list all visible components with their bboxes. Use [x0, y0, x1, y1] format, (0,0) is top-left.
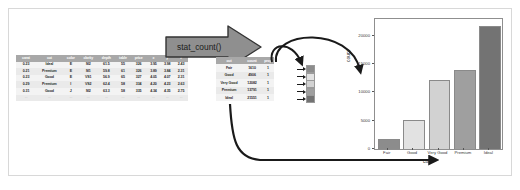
y-axis-tick-mark [372, 148, 374, 149]
cell-cut: Fair [216, 64, 242, 71]
cell-carat: 0.31 [16, 88, 36, 95]
cell-price: 326 [131, 62, 147, 69]
cell-count: 4906 [242, 72, 262, 79]
table-row: 0.23 Good E VS1 56.9 65 327 4.05 4.07 2.… [16, 75, 188, 82]
summary-row: Very Good 12082 1 [216, 79, 274, 86]
summary-header-row: cut count prop [216, 57, 274, 64]
column-header-color: color [63, 55, 79, 62]
cell-prop: 1 [262, 72, 274, 79]
bar-chart: count cut 05000100001500020000FairGoodVe… [351, 14, 506, 166]
x-axis-tick-mark [412, 148, 413, 150]
cell-cut: Premium [36, 68, 63, 75]
x-axis-tick-mark [488, 148, 489, 150]
cell-prop: 1 [262, 79, 274, 86]
column-header-carat: carat [16, 55, 36, 62]
cell-price: 335 [131, 88, 147, 95]
y-axis-tick-label: 20000 [358, 32, 370, 37]
cell-cut: Ideal [36, 62, 63, 69]
cell-count: 1610 [242, 64, 262, 71]
summary-table: cut count prop Fair 1610 1 Good 4906 1 V… [216, 57, 274, 101]
cell-price: 326 [131, 68, 147, 75]
cell-color: E [63, 75, 79, 82]
cell-cut: Good [36, 75, 63, 82]
bar [429, 80, 451, 149]
x-axis-tick-label: Ideal [476, 150, 501, 155]
cell-carat: 0.21 [16, 68, 36, 75]
cell-count: 13791 [242, 87, 262, 94]
cell-depth: 59.8 [98, 68, 116, 75]
cell-cut: Premium [36, 81, 63, 88]
x-axis-tick-mark [463, 148, 464, 150]
bar [378, 139, 400, 149]
cell-carat: 0.29 [16, 81, 36, 88]
cell-clarity: SI2 [79, 88, 98, 95]
column-header-table: table [115, 55, 131, 62]
plot-panel [374, 18, 503, 150]
column-header-cut: cut [36, 55, 63, 62]
cell-z: 2.31 [174, 68, 188, 75]
cell-color: J [63, 88, 79, 95]
table-row: 0.23 Ideal E SI2 61.5 55 326 3.95 3.98 2… [16, 62, 188, 69]
cell-cut: Premium [216, 87, 242, 94]
cell-y: ... [160, 95, 174, 102]
cell-clarity: VS2 [79, 81, 98, 88]
cell-z: 2.63 [174, 81, 188, 88]
cell-table: ... [115, 95, 131, 102]
swatch-row [297, 74, 315, 80]
cell-carat: ... [16, 95, 36, 102]
cell-depth: 56.9 [98, 75, 116, 82]
cell-y: 4.07 [160, 75, 174, 82]
cell-price: ... [131, 95, 147, 102]
cell-price: 327 [131, 75, 147, 82]
cell-y: 4.35 [160, 88, 174, 95]
cell-cut: Ideal [216, 94, 242, 101]
cell-z: 2.31 [174, 75, 188, 82]
summary-table-wrapper: cut count prop Fair 1610 1 Good 4906 1 V… [216, 57, 274, 101]
cell-carat: 0.23 [16, 62, 36, 69]
cell-table: 55 [115, 62, 131, 69]
table-row: 0.31 Good J SI2 63.3 58 335 4.34 4.35 2.… [16, 88, 188, 95]
bar [454, 70, 476, 149]
table-row: 0.29 Premium I VS2 62.4 58 334 4.20 4.23… [16, 81, 188, 88]
arrow-right-icon [297, 96, 306, 102]
y-axis-tick-label: 5000 [361, 117, 370, 122]
y-axis-tick-label: 0 [368, 146, 370, 151]
cell-depth: 63.3 [98, 88, 116, 95]
y-axis-tick-label: 10000 [358, 89, 370, 94]
arrow-right-icon [297, 89, 306, 95]
cell-depth: 62.4 [98, 81, 116, 88]
cell-prop: 1 [262, 64, 274, 71]
cell-x: 3.95 [147, 62, 161, 69]
cell-x: 4.20 [147, 81, 161, 88]
column-header-prop: prop [262, 57, 274, 64]
bar [403, 120, 425, 149]
summary-row: Premium 13791 1 [216, 87, 274, 94]
summary-row: Good 4906 1 [216, 72, 274, 79]
y-axis-tick-mark [372, 35, 374, 36]
cell-x: 4.05 [147, 75, 161, 82]
swatch-column [297, 66, 315, 102]
cell-x: ... [147, 95, 161, 102]
cell-x: 3.89 [147, 68, 161, 75]
y-axis-tick-mark [372, 120, 374, 121]
diagram-canvas: carat cut color clarity depth table pric… [0, 0, 520, 190]
column-header-depth: depth [98, 55, 116, 62]
color-swatch [306, 95, 315, 103]
table-row-continuation: ... ... ... ... ... ... ... ... ... ... [16, 95, 188, 102]
x-axis-tick-label: Good [399, 150, 424, 155]
cell-clarity: SI1 [79, 68, 98, 75]
summary-row: Ideal 21551 1 [216, 94, 274, 101]
transform-label: stat_count() [177, 42, 221, 52]
cell-cut: ... [36, 95, 63, 102]
cell-table: 58 [115, 81, 131, 88]
cell-clarity: VS1 [79, 75, 98, 82]
cell-prop: 1 [262, 87, 274, 94]
column-header-clarity: clarity [79, 55, 98, 62]
cell-price: 334 [131, 81, 147, 88]
cell-clarity: SI2 [79, 62, 98, 69]
cell-prop: 1 [262, 94, 274, 101]
arrow-right-icon [297, 81, 306, 87]
raw-data-table: carat cut color clarity depth table pric… [16, 55, 188, 101]
swatch-row [297, 66, 315, 72]
swatch-row [297, 81, 315, 87]
